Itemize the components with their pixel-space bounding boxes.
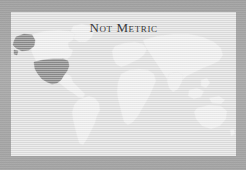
region-southeast-asia-islands xyxy=(188,88,204,99)
region-africa xyxy=(117,69,156,125)
region-new-guinea xyxy=(209,96,225,104)
map-panel: Not Metric xyxy=(11,12,236,156)
page-title: Not Metric xyxy=(11,20,236,36)
figure-root: Not Metric xyxy=(0,0,246,170)
region-asia xyxy=(143,34,223,84)
region-india xyxy=(167,72,183,92)
region-philippines xyxy=(201,78,210,88)
region-new-zealand xyxy=(230,129,235,136)
region-south-america xyxy=(72,96,100,145)
region-australia xyxy=(194,105,227,129)
region-europe xyxy=(112,42,147,67)
